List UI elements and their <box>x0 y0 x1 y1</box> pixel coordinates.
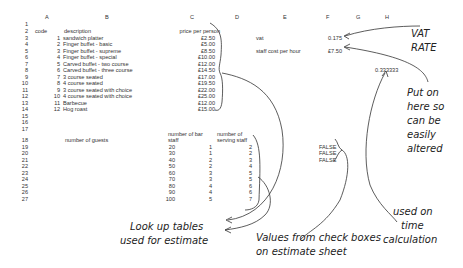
row-number[interactable]: 7 <box>18 61 28 67</box>
menu-code[interactable]: 5 <box>48 61 60 67</box>
column-header-d[interactable]: D <box>235 14 239 20</box>
bar-staff-value[interactable]: 1 <box>200 150 212 156</box>
menu-price[interactable]: £12.00 <box>180 61 215 67</box>
bar-staff-header-2[interactable]: staff <box>168 137 178 143</box>
row-number[interactable]: 11 <box>18 87 28 93</box>
column-header-c[interactable]: C <box>190 14 194 20</box>
menu-description[interactable]: sandwich platter <box>63 35 103 41</box>
menu-price[interactable]: £14.50 <box>180 67 215 73</box>
serving-staff-header-1[interactable]: number of <box>217 131 242 137</box>
menu-code[interactable]: 2 <box>48 41 60 47</box>
menu-price[interactable]: £10.00 <box>180 54 215 60</box>
menu-description[interactable]: Barbecue <box>63 100 87 106</box>
menu-price[interactable]: £8.50 <box>180 48 215 54</box>
menu-description[interactable]: Finger buffet - special <box>63 54 117 60</box>
column-header-b[interactable]: B <box>105 14 109 20</box>
menu-description[interactable]: 4 course seated with choice <box>63 93 132 99</box>
menu-code[interactable]: 7 <box>48 74 60 80</box>
bar-staff-value[interactable]: 1 <box>200 144 212 150</box>
column-header-g[interactable]: G <box>356 14 360 20</box>
guests-value[interactable]: 50 <box>150 163 175 169</box>
row-number[interactable]: 19 <box>18 144 28 150</box>
bar-staff-value[interactable]: 4 <box>200 183 212 189</box>
row-number[interactable]: 5 <box>18 48 28 54</box>
menu-description[interactable]: Finger buffet - supreme <box>63 48 121 54</box>
row-number[interactable]: 14 <box>18 106 28 112</box>
menu-code[interactable]: 10 <box>48 93 60 99</box>
row-number[interactable]: 3 <box>18 35 28 41</box>
staff-cost-value[interactable]: £7.50 <box>315 48 342 54</box>
code-header[interactable]: code <box>35 28 47 34</box>
menu-description[interactable]: 3 course seated with choice <box>63 87 132 93</box>
serving-staff-value[interactable]: 6 <box>240 183 252 189</box>
serving-staff-value[interactable]: 3 <box>240 157 252 163</box>
row-number[interactable]: 4 <box>18 41 28 47</box>
row-number[interactable]: 24 <box>18 176 28 182</box>
menu-price[interactable]: £25.00 <box>180 93 215 99</box>
menu-price[interactable]: £5.00 <box>180 41 215 47</box>
bar-staff-value[interactable]: 4 <box>200 189 212 195</box>
column-header-e[interactable]: E <box>283 14 287 20</box>
menu-price[interactable]: £17.00 <box>180 74 215 80</box>
row-number[interactable]: 15 <box>18 113 28 119</box>
menu-code[interactable]: 3 <box>48 48 60 54</box>
checkbox-value[interactable]: FALSE <box>319 157 336 163</box>
bar-staff-value[interactable]: 5 <box>200 196 212 202</box>
menu-description[interactable]: Carved buffet - two course <box>63 61 129 67</box>
price-header[interactable]: price per person <box>160 28 220 34</box>
row-number[interactable]: 1 <box>18 21 28 27</box>
menu-description[interactable]: Hog roast <box>63 106 87 112</box>
menu-code[interactable]: 1 <box>48 35 60 41</box>
bar-staff-value[interactable]: 3 <box>200 170 212 176</box>
menu-description[interactable]: Carved buffet - three course <box>63 67 133 73</box>
time-factor-value[interactable]: 0.333333 <box>375 67 398 73</box>
menu-description[interactable]: Finger buffet - basic <box>63 41 112 47</box>
serving-staff-value[interactable]: 5 <box>240 170 252 176</box>
menu-price[interactable]: £12.00 <box>180 100 215 106</box>
bar-staff-value[interactable]: 2 <box>200 163 212 169</box>
column-header-a[interactable]: A <box>45 14 49 20</box>
row-number[interactable]: 16 <box>18 119 28 125</box>
row-number[interactable]: 26 <box>18 189 28 195</box>
guests-value[interactable]: 40 <box>150 157 175 163</box>
serving-staff-value[interactable]: 4 <box>240 163 252 169</box>
row-number[interactable]: 20 <box>18 150 28 156</box>
menu-price[interactable]: £22.00 <box>180 87 215 93</box>
row-number[interactable]: 27 <box>18 196 28 202</box>
menu-price[interactable]: £15.00 <box>180 106 215 112</box>
checkbox-value[interactable]: FALSE <box>319 150 336 156</box>
row-number[interactable]: 10 <box>18 80 28 86</box>
description-header[interactable]: description <box>64 28 91 34</box>
guests-value[interactable]: 20 <box>150 144 175 150</box>
vat-label[interactable]: vat <box>256 35 263 41</box>
bar-staff-header-1[interactable]: number of bar <box>168 131 203 137</box>
bar-staff-value[interactable]: 3 <box>200 176 212 182</box>
menu-code[interactable]: 6 <box>48 67 60 73</box>
serving-staff-value[interactable]: 7 <box>240 196 252 202</box>
menu-code[interactable]: 4 <box>48 54 60 60</box>
row-number[interactable]: 18 <box>18 137 28 143</box>
row-number[interactable]: 8 <box>18 67 28 73</box>
checkbox-value[interactable]: FALSE <box>319 144 336 150</box>
row-number[interactable]: 21 <box>18 157 28 163</box>
row-number[interactable]: 6 <box>18 54 28 60</box>
serving-staff-value[interactable]: 5 <box>240 176 252 182</box>
row-number[interactable]: 22 <box>18 163 28 169</box>
serving-staff-value[interactable]: 2 <box>240 150 252 156</box>
guests-value[interactable]: 60 <box>150 170 175 176</box>
serving-staff-value[interactable]: 2 <box>240 144 252 150</box>
guests-value[interactable]: 30 <box>150 150 175 156</box>
guests-value[interactable]: 80 <box>150 183 175 189</box>
guests-value[interactable]: 90 <box>150 189 175 195</box>
menu-description[interactable]: 4 course seated <box>63 80 103 86</box>
row-number[interactable]: 25 <box>18 183 28 189</box>
column-header-h[interactable]: H <box>385 14 389 20</box>
row-number[interactable]: 2 <box>18 28 28 34</box>
row-number[interactable]: 9 <box>18 74 28 80</box>
row-number[interactable]: 12 <box>18 93 28 99</box>
menu-code[interactable]: 12 <box>48 106 60 112</box>
bar-staff-value[interactable]: 2 <box>200 157 212 163</box>
menu-price[interactable]: £19.50 <box>180 80 215 86</box>
menu-code[interactable]: 9 <box>48 87 60 93</box>
row-number[interactable]: 23 <box>18 170 28 176</box>
